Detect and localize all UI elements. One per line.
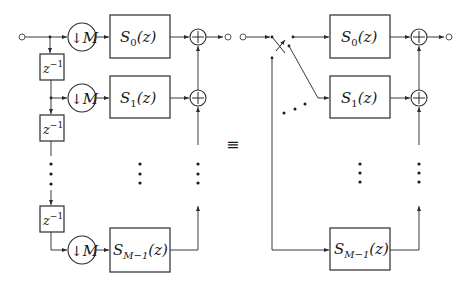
polyphase-diagram: ↓M S0(z) z−1 ↓M [0, 0, 473, 288]
downsampler-0: ↓M [68, 23, 99, 51]
filter-s0-right: S0(z) [330, 15, 390, 58]
adder-1-right [411, 90, 427, 106]
ellipsis-delay-chain [49, 162, 52, 185]
adder-1-left [190, 90, 206, 106]
commutator-switch [271, 36, 295, 60]
downsampler-m1: ↓M [68, 236, 99, 264]
svg-text:↓M: ↓M [71, 90, 99, 108]
filter-s1-right: S1(z) [330, 76, 390, 118]
output-port-right [446, 34, 452, 40]
right-diagram: S0(z) S1(z) SM−1(z) [240, 15, 452, 270]
ellipsis-filters-right [358, 162, 361, 183]
input-port [19, 34, 25, 40]
svg-text:S0(z): S0(z) [341, 28, 377, 48]
equivalence-symbol: ≡ [226, 135, 239, 154]
ellipsis-switch-contacts [283, 103, 307, 115]
output-port [225, 34, 231, 40]
svg-text:S1(z): S1(z) [120, 89, 156, 109]
svg-text:↓M: ↓M [71, 242, 99, 260]
filter-s1-left: S1(z) [110, 76, 170, 118]
downsampler-1: ↓M [68, 84, 99, 112]
delay-2: z−1 [40, 115, 64, 141]
delay-3: z−1 [40, 206, 64, 232]
input-port-right [240, 34, 246, 40]
ellipsis-adders-right [417, 162, 420, 183]
svg-text:↓M: ↓M [71, 29, 99, 47]
svg-text:S1(z): S1(z) [341, 89, 377, 109]
filter-sm1-right: SM−1(z) [330, 228, 390, 270]
adder-0-left [190, 29, 206, 45]
ellipsis-adders-left [196, 162, 199, 184]
delay-1: z−1 [40, 54, 64, 80]
ellipsis-filters-left [138, 162, 141, 184]
left-diagram: ↓M S0(z) z−1 ↓M [19, 15, 231, 272]
down-arrow: ↓ [71, 30, 83, 46]
adder-0-right [411, 29, 427, 45]
filter-s0-left: S0(z) [110, 15, 170, 58]
filter-sm1-left: SM−1(z) [110, 228, 170, 272]
svg-text:S0(z): S0(z) [120, 28, 156, 48]
